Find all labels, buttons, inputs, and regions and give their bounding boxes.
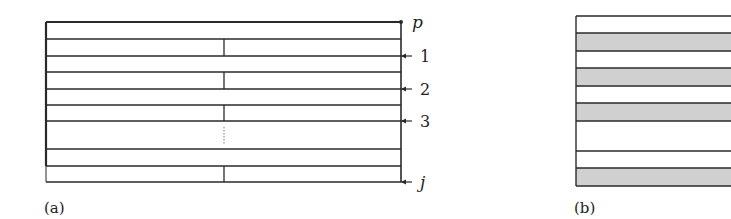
stripe-row <box>576 86 731 103</box>
stripe-row <box>576 121 731 151</box>
stripe-row <box>576 51 731 68</box>
corner-dot <box>399 20 403 24</box>
stripe-row <box>576 168 731 186</box>
stripe-row <box>576 33 731 51</box>
panel-b-diagram <box>576 16 731 186</box>
row-label-j: j <box>416 172 426 192</box>
panel-a-diagram <box>46 20 412 185</box>
figure-canvas: p 1 2 3 j (a) (b) <box>0 0 731 219</box>
stripe-row <box>576 103 731 121</box>
panel-a-label: (a) <box>44 199 65 217</box>
panel-b-label: (b) <box>574 199 595 217</box>
row-label-1: 1 <box>420 47 430 66</box>
row-label-p: p <box>412 12 423 32</box>
stripe-row <box>576 16 731 33</box>
stripe-row <box>576 151 731 168</box>
stripe-row <box>576 68 731 86</box>
row-label-3: 3 <box>420 112 430 131</box>
row-label-2: 2 <box>420 80 430 99</box>
